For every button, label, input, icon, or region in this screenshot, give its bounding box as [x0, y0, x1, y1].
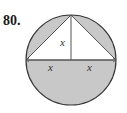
- height-label: x: [59, 36, 65, 48]
- circle-triangle-diagram: x x x: [0, 0, 127, 113]
- left-base-label: x: [47, 61, 53, 73]
- lower-semicircle-shade: [26, 60, 116, 105]
- right-base-label: x: [86, 61, 92, 73]
